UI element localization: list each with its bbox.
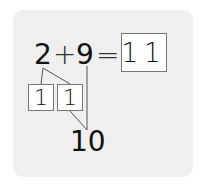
part-2-box[interactable]: 1 (57, 84, 83, 111)
part-2-value: 1 (63, 85, 77, 110)
addend-2: 9 (76, 41, 94, 69)
plus-sign: + (53, 41, 76, 69)
ten-label: 10 (70, 128, 106, 156)
answer-value: 11 (121, 38, 166, 68)
answer-box[interactable]: 11 (121, 33, 167, 72)
part-1-value: 1 (34, 85, 48, 110)
addend-1: 2 (34, 41, 52, 69)
equals-sign: = (96, 41, 119, 69)
part-1-box[interactable]: 1 (28, 84, 54, 111)
